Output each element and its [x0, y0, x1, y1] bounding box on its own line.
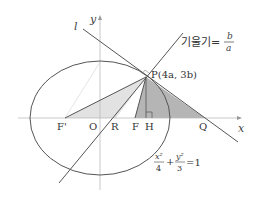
- equation-x-num: x²: [155, 152, 163, 161]
- point-r-label: R: [111, 121, 119, 132]
- equation-plus: +: [166, 156, 174, 167]
- point-q-label: Q: [199, 121, 207, 132]
- ellipse-diagram: y x l F' O R F H Q P(4a, 3b) 기울기= b a x²…: [0, 0, 255, 199]
- line-l-label: l: [74, 20, 78, 33]
- point-p-label: P(4a, 3b): [151, 69, 197, 80]
- slope-text: 기울기=: [181, 36, 220, 49]
- y-axis-arrow-icon: [98, 15, 102, 20]
- y-axis-label: y: [89, 13, 97, 26]
- point-f-label: F: [132, 121, 139, 132]
- slope-denominator: a: [226, 43, 231, 53]
- equation-y-den: 3: [177, 164, 182, 173]
- diagram-canvas: y x l F' O R F H Q P(4a, 3b) 기울기= b a x²…: [0, 0, 255, 199]
- slope-numerator: b: [227, 31, 233, 41]
- point-h-label: H: [145, 121, 154, 132]
- x-axis-label: x: [238, 122, 245, 135]
- equation-rhs: =1: [186, 157, 201, 168]
- point-o-label: O: [89, 121, 97, 132]
- x-axis-arrow-icon: [237, 116, 242, 120]
- point-fprime-label: F': [57, 121, 67, 132]
- equation-y-num: y²: [175, 152, 184, 161]
- equation-x-den: 4: [156, 164, 161, 173]
